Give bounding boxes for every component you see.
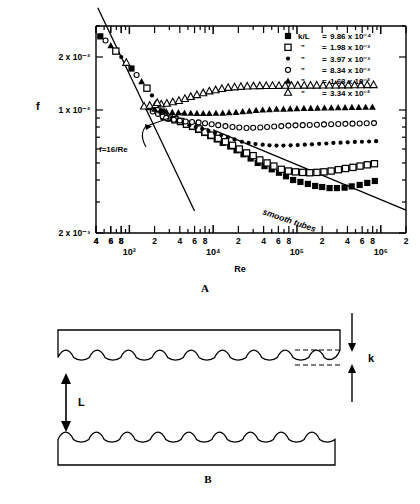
data-point xyxy=(296,143,300,147)
legend-value: 3.97 x 10⁻³ xyxy=(330,55,370,64)
legend-key-symbol: " xyxy=(301,77,305,86)
data-point xyxy=(271,163,277,169)
data-point xyxy=(230,125,235,130)
data-point xyxy=(253,107,260,113)
data-point xyxy=(349,183,355,189)
legend-value: 1.63 x 10⁻² xyxy=(330,77,370,86)
data-point xyxy=(293,123,298,128)
figure-root: 4682468246824682468 10³10⁴10⁵10⁶ 2 x 10⁻… xyxy=(0,0,420,504)
data-point xyxy=(134,73,139,78)
rough-plate-upper xyxy=(58,330,340,360)
data-point xyxy=(321,104,328,110)
data-point xyxy=(258,125,263,130)
data-point xyxy=(250,153,256,159)
data-point xyxy=(138,78,145,84)
legend-value: 8.34 x 10⁻³ xyxy=(330,66,370,75)
data-point xyxy=(257,157,263,163)
x-decade-label: 10⁶ xyxy=(374,247,388,257)
x-decade-label: 10⁴ xyxy=(206,247,220,257)
legend-value: 3.34 x 10⁻² xyxy=(330,89,370,98)
data-point xyxy=(331,141,335,145)
y-tick-label: 1 x 10⁻² xyxy=(59,105,91,115)
x-tick-label: 2 xyxy=(320,236,325,246)
L-arrowhead-down xyxy=(61,421,71,432)
data-point xyxy=(236,146,242,152)
data-point xyxy=(275,82,282,89)
x-tick-label: 2 xyxy=(236,236,241,246)
data-point xyxy=(285,168,291,174)
data-point xyxy=(243,150,249,156)
data-point xyxy=(187,93,194,100)
data-point xyxy=(280,105,287,111)
data-point xyxy=(314,105,321,111)
x-decade-label: 10⁵ xyxy=(290,247,304,257)
k-arrowhead-down xyxy=(348,343,356,352)
data-point xyxy=(360,140,364,144)
data-point xyxy=(159,108,165,114)
data-point xyxy=(247,141,251,145)
x-tick-label: 4 xyxy=(177,236,182,246)
data-point xyxy=(256,82,263,89)
data-point xyxy=(286,123,291,128)
data-point xyxy=(233,109,240,115)
data-point xyxy=(266,106,273,112)
data-point xyxy=(278,166,284,172)
data-point xyxy=(232,137,236,141)
data-point xyxy=(289,143,293,147)
x-axis-decade-labels: 10³10⁴10⁵10⁶ xyxy=(123,247,388,257)
legend-item-3: "=8.34 x 10⁻³ xyxy=(286,66,371,75)
legend-key-symbol: " xyxy=(301,43,305,52)
data-point xyxy=(213,131,217,135)
y-axis-title: f xyxy=(36,100,40,112)
data-point xyxy=(321,122,326,127)
data-point xyxy=(290,177,296,183)
data-point xyxy=(371,161,377,167)
data-point xyxy=(183,119,188,124)
data-point xyxy=(305,181,311,187)
data-point xyxy=(107,42,114,48)
y-axis-labels: 2 x 10⁻²1 x 10⁻²2 x 10⁻³ xyxy=(59,52,91,238)
legend-key-symbol: " xyxy=(301,89,305,98)
data-point xyxy=(128,65,134,71)
data-point xyxy=(194,110,201,116)
legend-key-symbol: k/L xyxy=(298,32,310,41)
data-point xyxy=(348,104,355,110)
data-point xyxy=(200,89,207,96)
data-point xyxy=(303,143,307,147)
data-point xyxy=(97,33,103,39)
data-point xyxy=(251,125,256,130)
x-axis-title: Re xyxy=(234,264,246,274)
k-arrowhead-up xyxy=(348,364,356,373)
data-point xyxy=(206,129,210,133)
x-axis-ticks xyxy=(96,225,406,233)
data-point xyxy=(314,169,320,175)
panel-a: 4682468246824682468 10³10⁴10⁵10⁶ 2 x 10⁻… xyxy=(36,8,409,294)
data-point xyxy=(222,139,228,145)
data-point xyxy=(244,125,249,130)
data-point xyxy=(297,179,303,185)
legend-value: 1.98 x 10⁻³ xyxy=(330,43,370,52)
x-tick-label: 6 xyxy=(276,236,281,246)
data-point xyxy=(219,133,223,137)
data-point xyxy=(335,104,342,110)
panel-a-letter: A xyxy=(201,282,209,294)
x-tick-label: 4 xyxy=(94,236,99,246)
data-point xyxy=(274,143,278,147)
data-point xyxy=(206,110,213,116)
data-point xyxy=(357,182,363,188)
L-arrowhead-up xyxy=(61,373,71,384)
x-decade-label: 10³ xyxy=(123,247,136,257)
data-point xyxy=(285,78,292,84)
data-point xyxy=(362,104,369,110)
data-point xyxy=(355,104,362,110)
data-point xyxy=(353,140,357,144)
series-2 xyxy=(162,114,378,147)
data-point xyxy=(200,110,207,116)
x-tick-label: 6 xyxy=(108,236,113,246)
data-point xyxy=(281,143,285,147)
legend-key-symbol: " xyxy=(301,66,305,75)
data-point xyxy=(292,169,298,175)
data-point xyxy=(357,121,362,126)
laminar-annotation-label: f=16/Re xyxy=(99,145,128,154)
data-point xyxy=(310,142,314,146)
